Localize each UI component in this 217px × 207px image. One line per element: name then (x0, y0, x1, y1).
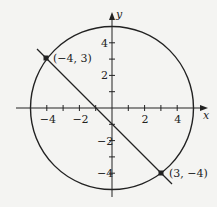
x-axis-label: x (203, 109, 210, 122)
point-label: (3, −4) (169, 167, 208, 180)
x-tick-label: 4 (174, 113, 181, 126)
point-marker (159, 171, 164, 176)
point-label: (−4, 3) (53, 52, 92, 65)
x-tick-label: −2 (72, 113, 88, 126)
y-tick-label: 2 (101, 69, 108, 82)
y-axis-label: y (115, 8, 123, 21)
x-tick-label: 2 (142, 113, 149, 126)
x-tick-label: −4 (40, 113, 56, 126)
y-axis-arrow-icon (109, 12, 115, 20)
y-tick-label: −4 (97, 167, 113, 180)
y-tick-label: −2 (97, 135, 113, 148)
circle-line-diagram: (−4, 3) (3, −4) x y −4−22442−2−4 (0, 0, 217, 207)
y-tick-label: 4 (101, 37, 108, 50)
point-marker (44, 56, 49, 61)
